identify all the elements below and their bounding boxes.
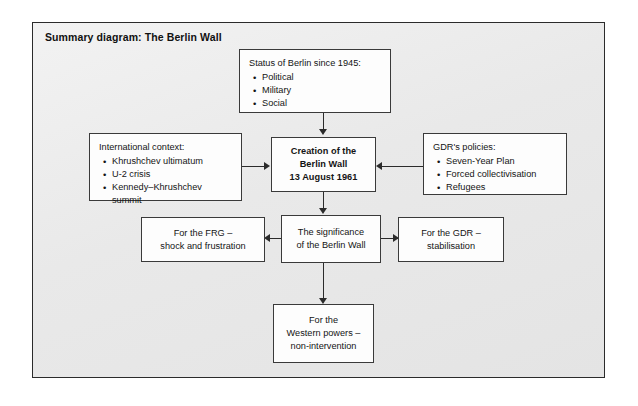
arrowhead-status-to-creation	[319, 129, 327, 135]
node-gdr-outcome-line-1: For the GDR –	[421, 227, 481, 240]
bullet-item: Refugees	[446, 181, 558, 194]
bullet-item: Seven-Year Plan	[446, 155, 558, 168]
bullet-item: Forced collectivisation	[446, 168, 558, 181]
node-significance-of-the-berlin-wall: The significance of the Berlin Wall	[281, 215, 381, 263]
node-frg-outcome-line-2: shock and frustration	[160, 240, 245, 253]
page-title: Summary diagram: The Berlin Wall	[45, 31, 222, 43]
node-creation-line-1: Creation of the	[291, 145, 357, 158]
node-creation-line-2: Berlin Wall	[300, 158, 348, 171]
arrowhead-international-to-creation	[264, 162, 270, 170]
node-international-context-heading: International context:	[99, 141, 233, 154]
node-significance-line-2: of the Berlin Wall	[296, 239, 365, 252]
arrowhead-gdr-policies-to-creation	[376, 162, 382, 170]
node-frg-outcome-line-1: For the FRG –	[174, 227, 233, 240]
node-frg-outcome: For the FRG – shock and frustration	[141, 217, 265, 262]
diagram-panel: Summary diagram: The Berlin Wall Status …	[32, 22, 605, 378]
node-status-of-berlin-heading: Status of Berlin since 1945:	[249, 57, 382, 70]
bullet-item: Political	[262, 71, 382, 84]
node-gdr-outcome: For the GDR – stabilisation	[398, 217, 504, 262]
node-western-powers-line-3: non-intervention	[291, 340, 357, 353]
connector-significance-to-western-powers	[323, 263, 324, 301]
node-western-powers-line-1: For the	[309, 314, 338, 327]
connector-international-to-creation	[242, 166, 266, 167]
bullet-item: U-2 crisis	[112, 168, 233, 181]
node-gdr-policies-heading: GDR's policies:	[433, 141, 558, 154]
bullet-item: Kennedy–Khrushchev summit	[112, 181, 233, 207]
node-creation-of-the-berlin-wall: Creation of the Berlin Wall 13 August 19…	[271, 137, 376, 192]
node-international-context: International context: Khrushchev ultima…	[89, 133, 242, 201]
bullet-item: Khrushchev ultimatum	[112, 155, 233, 168]
node-status-of-berlin: Status of Berlin since 1945: Political M…	[239, 49, 391, 113]
node-gdr-outcome-line-2: stabilisation	[427, 240, 475, 253]
node-gdr-policies-bullets: Seven-Year Plan Forced collectivisation …	[433, 155, 558, 194]
node-gdr-policies: GDR's policies: Seven-Year Plan Forced c…	[423, 133, 567, 195]
bullet-item: Military	[262, 84, 382, 97]
node-western-powers-line-2: Western powers –	[287, 327, 361, 340]
node-creation-line-3: 13 August 1961	[290, 171, 358, 184]
connector-gdr-policies-to-creation	[382, 166, 423, 167]
node-significance-line-1: The significance	[298, 226, 364, 239]
arrowhead-creation-to-significance	[319, 208, 327, 214]
node-western-powers-outcome: For the Western powers – non-interventio…	[273, 304, 374, 363]
node-international-context-bullets: Khrushchev ultimatum U-2 crisis Kennedy–…	[99, 155, 233, 207]
bullet-item: Social	[262, 97, 382, 110]
node-status-of-berlin-bullets: Political Military Social	[249, 71, 382, 110]
